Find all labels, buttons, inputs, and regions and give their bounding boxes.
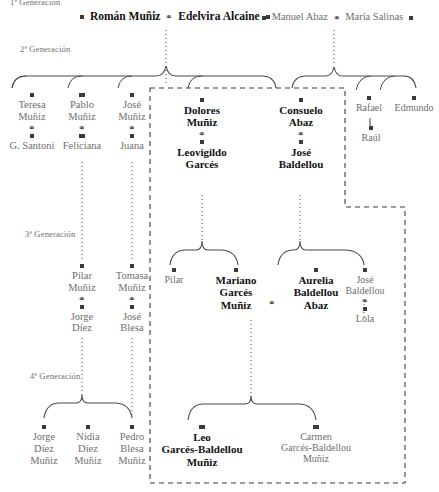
person-carmen-garces-baldellou-muniz: Carmen Garcés-Baldellou Muñiz xyxy=(268,425,364,465)
person-maria-salinas: María Salinas xyxy=(345,11,403,22)
spouse-leovigildo-garces-line1: Leovigildo xyxy=(166,146,238,158)
person-raul: Raúl xyxy=(350,126,392,143)
marriage-icon-mariano-aurelia: ⚭ xyxy=(266,298,278,308)
person-pilar-garces: Pilar xyxy=(152,268,196,285)
spouse-jose-baldellou-line2: Baldellou xyxy=(266,158,336,170)
genealogy-diagram: 1ª Generación 2ª Generación 3ª Generació… xyxy=(0,0,439,492)
marker-icon xyxy=(79,93,85,97)
person-jose-baldellou-gen3: José Baldellou ⚭ Lola xyxy=(336,268,394,325)
diagram-lines-layer xyxy=(0,0,439,492)
marker-icon xyxy=(172,268,176,272)
brace-gen1-right xyxy=(292,67,416,88)
person-dolores-munoz: Dolores Muñiz ⚭ Leovigildo Garcés xyxy=(166,98,238,170)
marriage-icon: ⚭ xyxy=(163,12,175,22)
person-mariano-garces-muniz: Mariano Garcés Muñiz xyxy=(200,268,272,311)
brace-tick-teresa xyxy=(12,76,26,88)
marker-icon xyxy=(86,425,90,429)
marriage-icon: ⚭ xyxy=(336,297,394,306)
marker-icon xyxy=(262,16,266,20)
brace-garces-children xyxy=(170,241,238,265)
marker-icon xyxy=(369,126,373,130)
marker-icon xyxy=(199,425,205,429)
gen-label-4: 4ª Generación xyxy=(30,371,81,381)
marker-icon xyxy=(200,140,204,144)
marker-icon xyxy=(30,134,34,138)
marriage-icon: ⚭ xyxy=(331,13,343,23)
marker-icon xyxy=(409,16,413,20)
brace-tick-dolores xyxy=(188,76,202,88)
brace-garces-baldellou-children xyxy=(188,396,316,420)
marker-icon xyxy=(363,268,367,272)
marker-icon xyxy=(130,134,134,138)
gen1-couple-right: Manuel Abaz ⚭ María Salinas xyxy=(262,11,413,23)
marker-icon xyxy=(299,98,303,102)
brace-tick-jose xyxy=(118,76,132,88)
brace-tick-rafael xyxy=(356,76,370,90)
marker-icon xyxy=(313,425,319,429)
gen1-couple-left: Román Muñiz ⚭ Edelvira Alcaine xyxy=(80,10,270,22)
marker-icon xyxy=(314,268,318,272)
spouse-jose-blesa-line1: José xyxy=(102,311,162,323)
marriage-icon: ⚭ xyxy=(266,130,336,139)
gen-label-1: 1ª Generación xyxy=(10,0,61,7)
gen-label-2: 2ª Generación xyxy=(20,44,71,54)
brace-baldellou-children xyxy=(278,241,364,265)
marker-icon xyxy=(363,307,367,311)
person-roman-muniz: Román Muñiz xyxy=(87,10,161,22)
person-jose-muniz: José Muñiz ⚭ Juana xyxy=(102,93,162,151)
marker-icon xyxy=(79,134,85,138)
marker-icon xyxy=(200,98,204,102)
marriage-icon: ⚭ xyxy=(166,130,238,139)
marker-icon xyxy=(80,15,84,19)
marker-icon xyxy=(130,305,134,309)
brace-tick-edmundo xyxy=(380,76,394,90)
spouse-jose-blesa-line2: Blesa xyxy=(102,322,162,334)
person-rafael: Rafael xyxy=(348,96,390,113)
spouse-jose-baldellou-line1: José xyxy=(266,146,336,158)
gen-label-3: 3ª Generación xyxy=(25,229,76,239)
brace-gen1-left xyxy=(12,66,276,88)
marker-icon xyxy=(42,425,46,429)
person-manuel-abaz: Manuel Abaz xyxy=(269,11,328,22)
person-consuelo-abaz: Consuelo Abaz ⚭ José Baldellou xyxy=(266,98,336,170)
marker-icon xyxy=(80,264,84,268)
marker-icon xyxy=(234,268,238,272)
spouse-juana: Juana xyxy=(102,140,162,152)
marker-icon xyxy=(130,425,134,429)
marker-icon xyxy=(130,93,134,97)
brace-diez-munoz-children xyxy=(44,395,132,418)
marriage-icon: ⚭ xyxy=(102,295,162,304)
spouse-lola: Lola xyxy=(336,313,394,324)
spouse-leovigildo-garces-line2: Garcés xyxy=(166,158,238,170)
marker-icon xyxy=(299,140,303,144)
marker-icon xyxy=(30,93,34,97)
marker-icon xyxy=(80,305,84,309)
marriage-icon: ⚭ xyxy=(102,124,162,133)
marker-icon xyxy=(412,96,416,100)
person-pedro-blesa-muniz: Pedro Blesa Muñiz xyxy=(106,425,158,466)
brace-tick-pablo xyxy=(68,76,82,88)
person-edmundo: Edmundo xyxy=(388,96,439,113)
person-leo-garces-baldellou-muniz: Leo Garcés-Baldellou Muñiz xyxy=(152,425,252,468)
marker-icon xyxy=(130,264,134,268)
marker-icon xyxy=(367,96,371,100)
person-edelvira-alcaine: Edelvira Alcaine xyxy=(178,10,259,22)
